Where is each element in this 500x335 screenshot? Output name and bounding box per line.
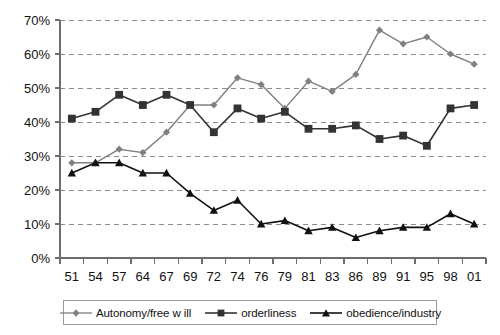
data-point-marker [399, 132, 407, 140]
y-axis-tick-label: 10% [24, 217, 50, 232]
x-axis-tick-label: 51 [65, 269, 79, 284]
x-axis-tick-label: 91 [396, 269, 410, 284]
x-axis-tick-label: 67 [159, 269, 173, 284]
legend-key-orderliness [204, 307, 238, 319]
y-axis-tick-label: 60% [24, 47, 50, 62]
series-line [72, 95, 474, 146]
x-axis-tick-label: 64 [136, 269, 150, 284]
legend-key-autonomy [59, 307, 93, 319]
data-point-marker [446, 210, 454, 218]
data-point-marker [447, 105, 455, 113]
data-point-marker [352, 122, 360, 130]
series-line [72, 30, 474, 163]
legend-label-obedience: obedience/industry [346, 307, 441, 319]
data-point-marker [92, 108, 100, 116]
series-line [72, 163, 474, 238]
data-point-marker [68, 169, 76, 177]
series-obedience [68, 159, 479, 241]
chart-canvas: 0%10%20%30%40%50%60%70%51545764676972747… [0, 0, 500, 292]
data-point-marker [257, 115, 265, 123]
x-axis-tick-label: 83 [325, 269, 339, 284]
x-axis-tick-label: 89 [372, 269, 386, 284]
data-point-marker [233, 196, 241, 204]
series-autonomy [68, 27, 478, 167]
y-axis-tick-label: 70% [24, 13, 50, 28]
data-point-marker [470, 101, 478, 109]
data-point-marker [186, 101, 194, 109]
x-axis-tick-label: 81 [301, 269, 315, 284]
data-point-marker [305, 125, 313, 133]
y-axis-tick-label: 30% [24, 149, 50, 164]
data-point-marker [115, 91, 123, 99]
data-point-marker [139, 101, 147, 109]
series-orderliness [68, 91, 478, 150]
y-axis-tick-label: 0% [31, 251, 50, 266]
x-axis-tick-label: 72 [207, 269, 221, 284]
x-axis-tick-label: 57 [112, 269, 126, 284]
plot-area: 0%10%20%30%40%50%60%70%51545764676972747… [0, 0, 500, 292]
chart-legend: Autonomy/free w ill orderliness obedienc… [63, 300, 437, 325]
legend-item-autonomy: Autonomy/free w ill [59, 307, 191, 319]
y-axis-tick-label: 40% [24, 115, 50, 130]
data-point-marker [328, 125, 336, 133]
data-point-marker [163, 91, 171, 99]
legend-item-obedience: obedience/industry [309, 307, 441, 319]
x-axis-tick-label: 95 [420, 269, 434, 284]
x-axis-tick-label: 86 [349, 269, 363, 284]
x-axis-tick-label: 79 [278, 269, 292, 284]
data-point-marker [281, 108, 289, 116]
x-axis-tick-label: 54 [88, 269, 102, 284]
legend-key-obedience [309, 307, 343, 319]
data-point-marker [376, 135, 384, 143]
data-point-marker [234, 105, 242, 113]
legend-item-orderliness: orderliness [204, 307, 296, 319]
legend-label-autonomy: Autonomy/free w ill [96, 307, 191, 319]
data-point-marker [116, 146, 123, 153]
data-point-marker [376, 27, 383, 34]
line-chart: 0%10%20%30%40%50%60%70%51545764676972747… [0, 0, 500, 335]
x-axis-tick-label: 76 [254, 269, 268, 284]
x-axis-tick-label: 01 [467, 269, 481, 284]
data-point-marker [210, 128, 218, 136]
x-axis-tick-label: 98 [443, 269, 457, 284]
x-axis-tick-label: 74 [230, 269, 244, 284]
data-point-marker [68, 115, 76, 123]
data-point-marker [471, 61, 478, 68]
legend-label-orderliness: orderliness [241, 307, 296, 319]
data-point-marker [68, 159, 75, 166]
x-axis-tick-label: 69 [183, 269, 197, 284]
data-point-marker [400, 40, 407, 47]
y-axis-tick-label: 20% [24, 183, 50, 198]
y-axis-tick-label: 50% [24, 81, 50, 96]
data-point-marker [423, 142, 431, 150]
